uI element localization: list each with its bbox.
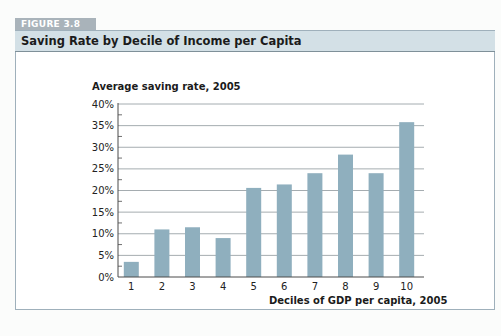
y-tick-label: 35%: [92, 120, 114, 131]
bar-decile-4: [216, 238, 231, 277]
y-tick-label: 30%: [92, 142, 114, 153]
y-tick-label: 40%: [92, 99, 114, 110]
bar-decile-5: [246, 188, 261, 277]
x-tick-label: 10: [400, 281, 413, 292]
bar-decile-1: [124, 262, 139, 277]
x-tick-label: 3: [189, 281, 195, 292]
bar-decile-6: [277, 184, 292, 277]
bar-decile-3: [185, 227, 200, 277]
x-tick-label: 8: [342, 281, 348, 292]
bar-decile-2: [154, 229, 169, 277]
bars: [124, 122, 414, 277]
y-tick-label: 5%: [98, 250, 114, 261]
source-note-cutoff: [130, 331, 430, 336]
y-tick-labels: 0%5%10%15%20%25%30%35%40%: [92, 99, 114, 283]
bar-decile-10: [399, 122, 414, 277]
x-tick-label: 5: [251, 281, 257, 292]
x-tick-label: 6: [281, 281, 287, 292]
bar-decile-9: [369, 173, 384, 277]
x-tick-labels: 12345678910: [128, 281, 413, 292]
x-tick-label: 1: [128, 281, 134, 292]
y-tick-label: 20%: [92, 185, 114, 196]
y-tick-label: 15%: [92, 207, 114, 218]
y-tick-label: 10%: [92, 228, 114, 239]
bar-chart: 0%5%10%15%20%25%30%35%40% 12345678910: [0, 0, 501, 336]
x-tick-label: 9: [373, 281, 379, 292]
x-tick-label: 4: [220, 281, 226, 292]
x-tick-label: 2: [159, 281, 165, 292]
x-tick-label: 7: [312, 281, 318, 292]
y-tick-label: 0%: [98, 272, 114, 283]
y-tick-label: 25%: [92, 163, 114, 174]
bar-decile-8: [338, 155, 353, 277]
bar-decile-7: [307, 173, 322, 277]
